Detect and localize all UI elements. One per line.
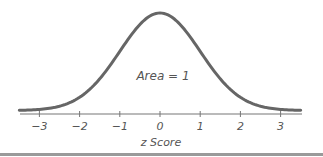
x-tick-label: −3	[31, 120, 47, 133]
x-tick-label: 1	[197, 120, 204, 133]
x-tick-label: 0	[157, 120, 164, 133]
bottom-rule	[0, 153, 323, 156]
x-axis-tick-labels: −3−2−10123	[31, 120, 284, 133]
x-tick-label: 2	[237, 120, 244, 133]
x-tick-label: −2	[71, 120, 87, 133]
area-annotation: Area = 1	[135, 69, 189, 83]
x-tick-label: 3	[277, 120, 284, 133]
normal-distribution-chart: −3−2−10123 Area = 1 z Score	[0, 0, 323, 157]
x-tick-label: −1	[112, 120, 128, 133]
x-axis-label: z Score	[140, 136, 182, 149]
normal-curve	[19, 13, 300, 110]
